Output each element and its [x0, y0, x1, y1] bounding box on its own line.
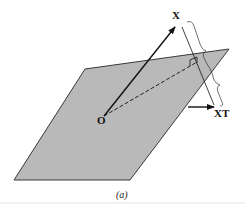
origin-label: O: [97, 114, 106, 126]
vector-x-label: X: [172, 9, 180, 21]
projection-xt-label: XT: [214, 107, 230, 119]
projection-diagram: O X XT (a): [0, 0, 245, 213]
plane-surface: [14, 49, 229, 180]
figure-caption: (a): [116, 189, 128, 201]
